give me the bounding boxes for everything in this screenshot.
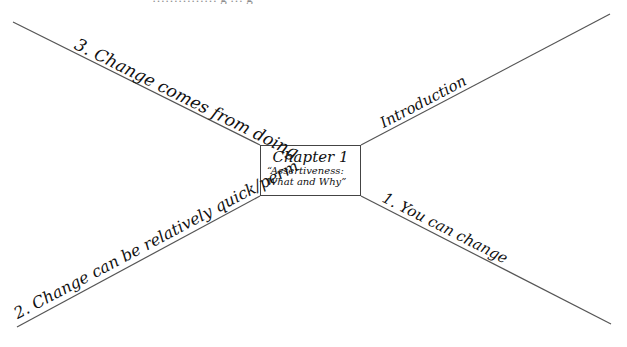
branch-line-lower-left xyxy=(17,196,260,327)
branch-line-lower-right xyxy=(361,196,611,324)
branch-line-upper-right xyxy=(361,14,610,145)
mind-map-canvas: …………… g … g Chapter 1 “Assertiveness: Wh… xyxy=(0,0,627,347)
